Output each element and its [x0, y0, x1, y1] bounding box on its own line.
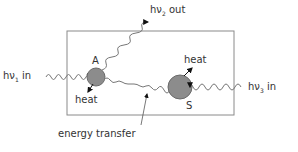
heat-a-label: heat — [75, 95, 98, 105]
energy-transfer-wave — [104, 78, 170, 93]
diagram-canvas — [0, 0, 298, 152]
node-a-label: A — [92, 56, 99, 66]
hv2-out-label: hν2 out — [150, 5, 185, 17]
energy-transfer-pointer — [141, 94, 147, 125]
node-s-label: S — [186, 101, 192, 111]
photon-out-2-wave — [102, 22, 148, 70]
photon-in-1-wave — [46, 75, 91, 80]
photon-in-3-wave — [190, 84, 241, 90]
energy-transfer-label: energy transfer — [58, 129, 136, 139]
heat-s-label: heat — [184, 55, 207, 65]
node-s-circle — [168, 75, 192, 99]
hv1-in-label: hν1 in — [3, 71, 31, 83]
heat-a-arrow — [88, 84, 93, 92]
heat-s-arrow — [184, 68, 192, 76]
node-a-circle — [87, 68, 105, 86]
hv3-in-label: hν3 in — [248, 82, 276, 94]
